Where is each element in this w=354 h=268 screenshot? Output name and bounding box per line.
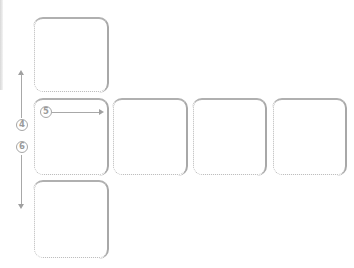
step-5-badge: 5: [40, 106, 52, 118]
tile-middle-4[interactable]: [273, 99, 346, 175]
arrow-right-icon: [99, 109, 104, 115]
tile-middle-2[interactable]: [113, 99, 187, 175]
tile-middle-3[interactable]: [193, 99, 266, 175]
vertical-arrow-line-lower: [21, 155, 22, 205]
step-6-badge: 6: [16, 141, 28, 153]
tile-top[interactable]: [34, 18, 108, 92]
tile-bottom[interactable]: [34, 181, 108, 258]
vertical-arrow-line-upper: [21, 74, 22, 118]
left-edge-shade: [0, 0, 3, 90]
step-4-badge: 4: [16, 119, 28, 131]
horizontal-arrow-line: [52, 112, 99, 113]
arrow-down-icon: [18, 204, 24, 209]
